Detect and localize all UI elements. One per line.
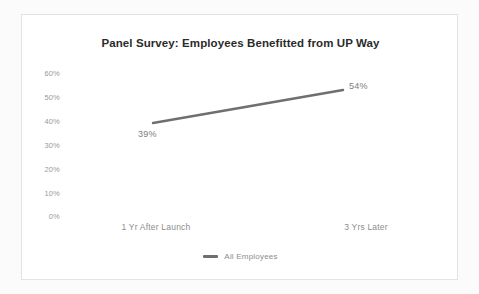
legend-entry-label: All Employees bbox=[224, 252, 277, 261]
series-line-all-employees bbox=[22, 15, 459, 281]
chart-card: Panel Survey: Employees Benefitted from … bbox=[21, 14, 458, 280]
data-label-end: 54% bbox=[349, 81, 368, 91]
page-background: Panel Survey: Employees Benefitted from … bbox=[0, 0, 479, 294]
legend-line-swatch-icon bbox=[203, 255, 218, 258]
chart-legend: All Employees bbox=[22, 252, 459, 261]
x-axis-tick-label: 1 Yr After Launch bbox=[96, 222, 216, 232]
plot-area: 60% 50% 40% 30% 20% 10% 0% 39% 54% 1 Yr … bbox=[22, 15, 459, 281]
data-label-start: 39% bbox=[138, 129, 157, 139]
x-axis-tick-label: 3 Yrs Later bbox=[306, 222, 426, 232]
